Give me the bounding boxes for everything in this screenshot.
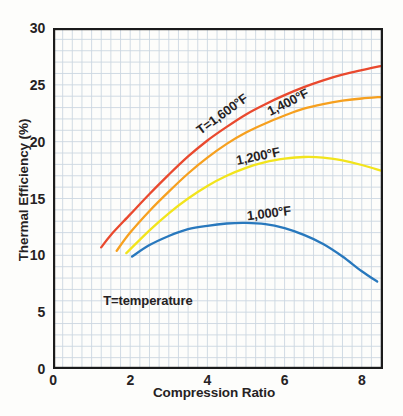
y-tick-label: 5	[8, 304, 45, 320]
y-tick-label: 10	[8, 247, 45, 263]
curve-1400f	[117, 97, 383, 251]
y-tick-label: 20	[8, 134, 45, 150]
x-tick-label: 2	[117, 372, 143, 388]
thermal-efficiency-chart: Thermal Efficiency (%) Compression Ratio…	[0, 0, 403, 416]
plot-area	[53, 28, 383, 369]
x-tick-label: 4	[194, 372, 220, 388]
y-tick-label: 25	[8, 77, 45, 93]
y-tick-label: 30	[8, 20, 45, 36]
x-tick-label: 8	[349, 372, 375, 388]
y-tick-label: 15	[8, 191, 45, 207]
x-tick-label: 6	[272, 372, 298, 388]
grid-lines	[53, 28, 383, 369]
temperature-note: T=temperature	[103, 292, 192, 307]
x-tick-label: 0	[40, 372, 66, 388]
